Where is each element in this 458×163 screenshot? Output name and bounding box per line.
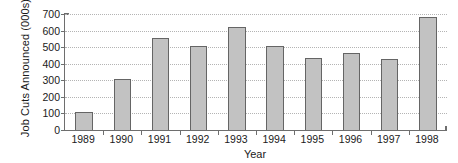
bar-series bbox=[65, 14, 447, 130]
bar bbox=[114, 79, 132, 130]
x-axis-tick-label: 1990 bbox=[110, 134, 133, 145]
x-axis-tick-label: 1991 bbox=[148, 134, 171, 145]
bar bbox=[381, 59, 399, 130]
bar bbox=[305, 58, 323, 130]
x-axis-tick-label: 1997 bbox=[377, 134, 400, 145]
plot-area bbox=[64, 14, 447, 131]
y-axis-tick-label: 500 bbox=[34, 42, 60, 53]
x-axis-tick-labels: 1989199019911992199319941995199619971998 bbox=[64, 134, 446, 148]
y-axis-tick-label: 400 bbox=[34, 58, 60, 69]
x-axis-tick-label: 1989 bbox=[71, 134, 94, 145]
y-axis-tick-labels: 0100200300400500600700 bbox=[34, 9, 60, 130]
x-axis-tick-label: 1998 bbox=[415, 134, 438, 145]
x-axis-tick-label: 1995 bbox=[301, 134, 324, 145]
y-axis-tick-label: 600 bbox=[34, 25, 60, 36]
x-axis-title: Year bbox=[64, 148, 446, 160]
bar-chart-figure: Job Cuts Announced (000s) 01002003004005… bbox=[0, 0, 458, 163]
y-axis-tick-label: 0 bbox=[34, 125, 60, 136]
bar bbox=[152, 38, 170, 130]
y-axis-tick-label: 700 bbox=[34, 9, 60, 20]
bar bbox=[266, 46, 284, 130]
bar bbox=[343, 53, 361, 130]
y-axis-tick bbox=[61, 130, 65, 131]
y-axis-tick-label: 100 bbox=[34, 108, 60, 119]
x-axis-tick-label: 1996 bbox=[339, 134, 362, 145]
x-axis-tick-label: 1993 bbox=[224, 134, 247, 145]
bar bbox=[75, 112, 93, 130]
y-axis-title: Job Cuts Announced (000s) bbox=[19, 0, 31, 138]
bar bbox=[419, 17, 437, 130]
y-axis-tick-label: 200 bbox=[34, 92, 60, 103]
x-axis-tick-label: 1992 bbox=[186, 134, 209, 145]
bar bbox=[190, 46, 208, 130]
x-axis-tick-label: 1994 bbox=[262, 134, 285, 145]
bar bbox=[228, 27, 246, 130]
y-axis-tick-label: 300 bbox=[34, 75, 60, 86]
